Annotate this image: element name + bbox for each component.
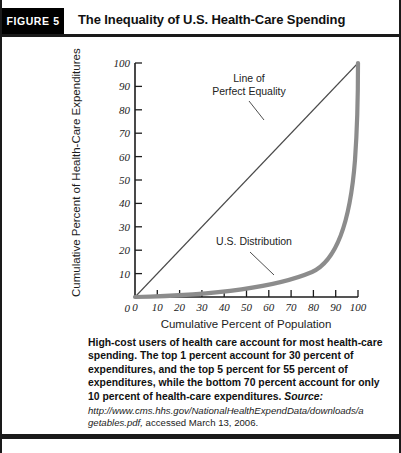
y-tick-label: 30 — [118, 221, 131, 233]
x-tick-label: 10 — [152, 301, 164, 313]
figure-number-badge: FIGURE 5 — [2, 8, 64, 34]
annotation-label: U.S. Distribution — [216, 235, 292, 247]
figure-container: FIGURE 5 The Inequality of U.S. Health-C… — [0, 0, 401, 453]
x-tick-label: 0 — [132, 301, 138, 313]
lorenz-curve-chart: Cumulative Percent of Health-Care Expend… — [2, 40, 401, 335]
x-tick-label: 80 — [308, 301, 320, 313]
x-tick-label: 30 — [195, 301, 208, 313]
y-tick-label: 60 — [119, 151, 131, 163]
figure-header: FIGURE 5 The Inequality of U.S. Health-C… — [2, 8, 401, 34]
y-tick-label: 80 — [119, 104, 131, 116]
y-tick-label: 100 — [114, 57, 131, 69]
x-tick-label: 60 — [263, 301, 275, 313]
x-axis-tick-labels: 0 10 20 30 40 50 60 70 80 90 100 — [132, 301, 367, 313]
y-tick-label: 90 — [119, 80, 131, 92]
x-tick-label: 100 — [350, 301, 367, 313]
page-title: The Inequality of U.S. Health-Care Spend… — [78, 12, 345, 27]
y-tick-label: 40 — [119, 197, 131, 209]
annotation-label-line2: Perfect Equality — [212, 85, 286, 97]
chart-area: Cumulative Percent of Health-Care Expend… — [2, 40, 401, 335]
y-axis-title: Cumulative Percent of Health-Care Expend… — [70, 48, 82, 297]
x-axis-title: Cumulative Percent of Population — [161, 318, 332, 330]
x-tick-label: 50 — [241, 301, 253, 313]
figure-number-label: FIGURE 5 — [6, 15, 59, 27]
annotation-us-distribution: U.S. Distribution — [216, 235, 292, 275]
figure-caption: High-cost users of health care account f… — [88, 336, 384, 430]
x-tick-label: 20 — [174, 301, 186, 313]
y-tick-label: 10 — [119, 268, 131, 280]
x-tick-label: 70 — [286, 301, 298, 313]
source-accessed-text: accessed March 13, 2006. — [143, 417, 258, 428]
y-tick-label: 0 — [125, 302, 131, 314]
annotation-leader-line — [250, 252, 274, 275]
caption-body-text: High-cost users of health care account f… — [88, 337, 382, 402]
x-tick-label: 40 — [219, 301, 231, 313]
y-axis-tick-labels: 100 90 80 70 60 50 40 30 20 10 0 — [114, 57, 131, 314]
x-tick-label: 90 — [330, 301, 342, 313]
y-tick-label: 50 — [119, 174, 131, 186]
y-axis-ticks — [135, 63, 142, 274]
header-divider — [2, 34, 401, 37]
footer-divider — [2, 434, 401, 439]
annotation-line-of-perfect-equality: Line of Perfect Equality — [212, 72, 286, 120]
source-url: http://www.cms.hhs.gov/NationalHealthExp… — [88, 405, 384, 430]
caption-text: High-cost users of health care account f… — [88, 336, 384, 430]
source-label: Source: — [284, 391, 323, 402]
y-tick-label: 20 — [119, 244, 131, 256]
annotation-leader-line — [249, 101, 264, 120]
annotation-label-line1: Line of — [233, 72, 265, 84]
y-tick-label: 70 — [119, 127, 131, 139]
